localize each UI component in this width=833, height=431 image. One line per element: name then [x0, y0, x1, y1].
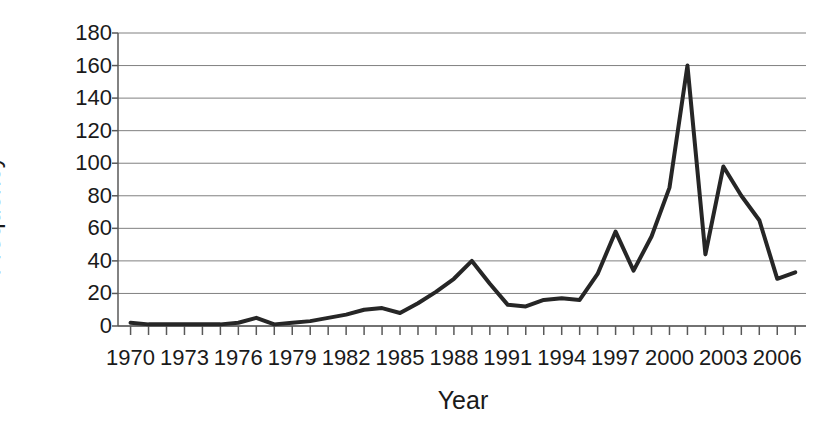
- axis-lines: [118, 33, 806, 326]
- data-series-line: [131, 66, 796, 325]
- gridlines: [118, 33, 806, 326]
- x-axis-title: Year: [118, 386, 808, 415]
- frequency-by-year-chart: Frequency 020406080100120140160180 19701…: [0, 0, 833, 431]
- y-axis-tick-marks: [112, 33, 118, 326]
- chart-canvas: [0, 0, 833, 431]
- x-axis-tick-marks: [131, 326, 796, 335]
